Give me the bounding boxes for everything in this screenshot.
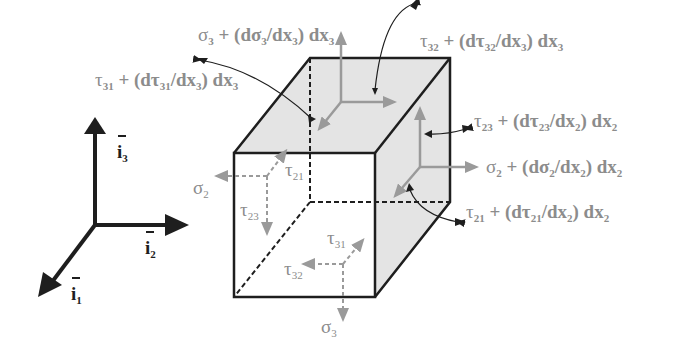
label-right-tau21: τ21 + (dτ21/dx2) dx2 [466,201,610,224]
label-top-tau32: τ32 + (dτ32/dx3) dx3 [420,30,564,53]
label-top-sigma3: σ3 + (dσ3/dx3) dx3 [198,24,335,47]
leader-tail-tau23-icon [462,125,472,133]
axis-i2-arrowhead-icon [165,214,189,236]
cube-front-face [234,153,375,297]
label-back-sigma2: σ2 [193,177,209,200]
axis-i1-label: i1 [71,283,82,306]
axis-i1-line [52,225,95,282]
label-bottom-sigma3: σ3 [321,316,337,339]
axis-i3-arrowhead-icon [84,117,106,134]
label-right-sigma2: σ2 + (dσ2/dx2) dx2 [486,156,623,179]
coordinate-axes: i3 i2 i1 [38,117,189,306]
label-top-tau31: τ31 + (dτ31/dx3) dx3 [95,69,239,92]
axis-i3-label: i3 [117,141,128,164]
stress-cube-diagram: i3 i2 i1 [0,0,686,342]
leader-tail-tau21-icon [455,218,466,226]
label-right-tau23: τ23 + (dτ23/dx2) dx2 [474,110,618,133]
axis-i2-label: i2 [145,237,156,260]
